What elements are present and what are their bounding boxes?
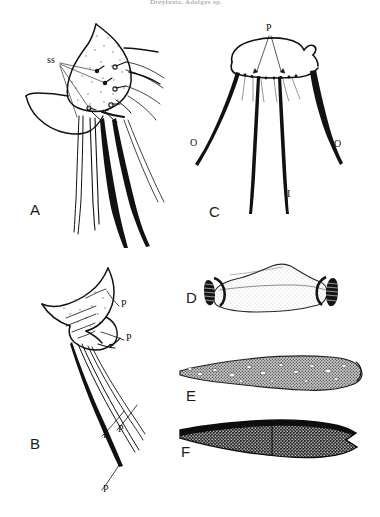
panel-f-drawing [0,0,380,517]
panel-letter-f: F [181,444,190,459]
panel-f-structure [180,420,357,458]
figure-plate: Dreyfusia, Adelges sp. [0,0,380,517]
